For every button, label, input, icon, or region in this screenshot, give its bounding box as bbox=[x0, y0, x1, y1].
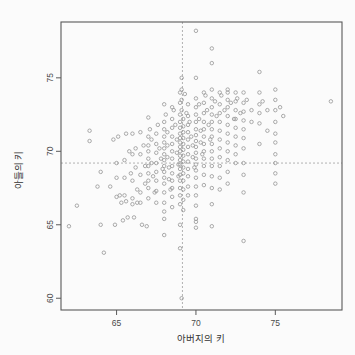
data-point bbox=[147, 186, 151, 190]
data-point bbox=[202, 135, 206, 139]
data-point bbox=[218, 129, 222, 133]
data-point bbox=[181, 172, 185, 176]
data-point bbox=[218, 120, 222, 124]
data-point bbox=[123, 158, 127, 162]
data-point bbox=[186, 160, 190, 164]
data-point bbox=[278, 105, 282, 109]
data-point bbox=[202, 183, 206, 187]
data-point bbox=[194, 194, 198, 198]
data-point bbox=[218, 164, 222, 168]
data-point bbox=[250, 120, 254, 124]
data-point bbox=[242, 191, 246, 195]
data-point bbox=[123, 176, 127, 180]
data-point bbox=[178, 120, 182, 124]
data-point bbox=[108, 185, 112, 189]
scatter-plot-figure: 657075 60657075 아버지의 키 아들의 키 bbox=[0, 0, 355, 355]
data-point bbox=[178, 247, 182, 251]
data-point bbox=[229, 101, 233, 105]
data-point bbox=[102, 251, 106, 255]
data-point bbox=[274, 88, 278, 92]
data-point bbox=[170, 142, 174, 146]
y-tick-label: 65 bbox=[45, 220, 55, 230]
data-point bbox=[202, 128, 206, 132]
data-point bbox=[96, 185, 100, 189]
data-point bbox=[210, 157, 214, 161]
data-point bbox=[329, 100, 333, 104]
y-axis-tick-labels: 60657075 bbox=[45, 73, 55, 303]
data-point bbox=[140, 223, 144, 227]
data-point bbox=[242, 136, 246, 140]
data-point bbox=[178, 223, 182, 227]
data-point bbox=[234, 108, 238, 112]
data-point bbox=[261, 100, 265, 104]
data-point bbox=[226, 158, 230, 162]
data-point bbox=[155, 201, 159, 205]
data-point bbox=[194, 29, 198, 33]
data-point bbox=[170, 126, 174, 130]
data-point bbox=[139, 152, 143, 156]
data-point bbox=[210, 47, 214, 51]
data-point bbox=[202, 120, 206, 124]
data-point bbox=[234, 144, 238, 148]
data-point bbox=[210, 128, 214, 132]
data-point bbox=[170, 164, 174, 168]
data-point bbox=[210, 186, 214, 190]
data-point bbox=[162, 120, 166, 124]
data-point bbox=[207, 123, 211, 127]
y-tick-label: 60 bbox=[45, 293, 55, 303]
data-point bbox=[170, 150, 174, 154]
data-point bbox=[162, 152, 166, 156]
data-point bbox=[147, 144, 151, 148]
data-point bbox=[194, 105, 198, 109]
data-point bbox=[128, 150, 132, 154]
data-point bbox=[186, 152, 190, 156]
data-point bbox=[147, 150, 151, 154]
data-point bbox=[186, 175, 190, 179]
data-point bbox=[210, 97, 214, 101]
data-point bbox=[123, 194, 127, 198]
data-point bbox=[155, 132, 159, 136]
data-point bbox=[218, 155, 222, 159]
data-point bbox=[186, 130, 190, 134]
data-point bbox=[75, 204, 79, 208]
data-point bbox=[194, 128, 198, 132]
data-point bbox=[210, 113, 214, 117]
data-point bbox=[205, 108, 209, 112]
data-point bbox=[215, 114, 219, 118]
data-point bbox=[88, 129, 92, 133]
data-point bbox=[226, 105, 230, 109]
data-point bbox=[162, 182, 166, 186]
data-point bbox=[274, 132, 278, 136]
data-point bbox=[131, 132, 135, 136]
data-point bbox=[258, 122, 262, 126]
data-point bbox=[162, 191, 166, 195]
data-point bbox=[115, 176, 119, 180]
data-point bbox=[202, 157, 206, 161]
data-point bbox=[218, 147, 222, 151]
data-point bbox=[242, 173, 246, 177]
data-point bbox=[258, 91, 262, 95]
data-point bbox=[181, 148, 185, 152]
data-point bbox=[155, 179, 159, 183]
data-point bbox=[124, 200, 128, 204]
data-point bbox=[194, 113, 198, 117]
data-point bbox=[147, 172, 151, 176]
data-point bbox=[186, 103, 190, 107]
data-point bbox=[220, 94, 224, 98]
data-point bbox=[274, 120, 278, 124]
data-point bbox=[242, 91, 246, 95]
x-axis-tick-labels: 657075 bbox=[112, 318, 280, 328]
data-point bbox=[210, 224, 214, 228]
data-point bbox=[210, 120, 214, 124]
data-point bbox=[210, 202, 214, 206]
data-point bbox=[170, 195, 174, 199]
y-axis-ticks bbox=[56, 78, 61, 298]
data-point bbox=[147, 179, 151, 183]
data-point bbox=[131, 179, 135, 183]
data-point bbox=[210, 175, 214, 179]
data-point bbox=[99, 223, 103, 227]
y-axis-title: 아들의 키 bbox=[13, 151, 24, 190]
data-point bbox=[178, 145, 182, 149]
data-point bbox=[210, 150, 214, 154]
x-tick-label: 65 bbox=[112, 318, 122, 328]
